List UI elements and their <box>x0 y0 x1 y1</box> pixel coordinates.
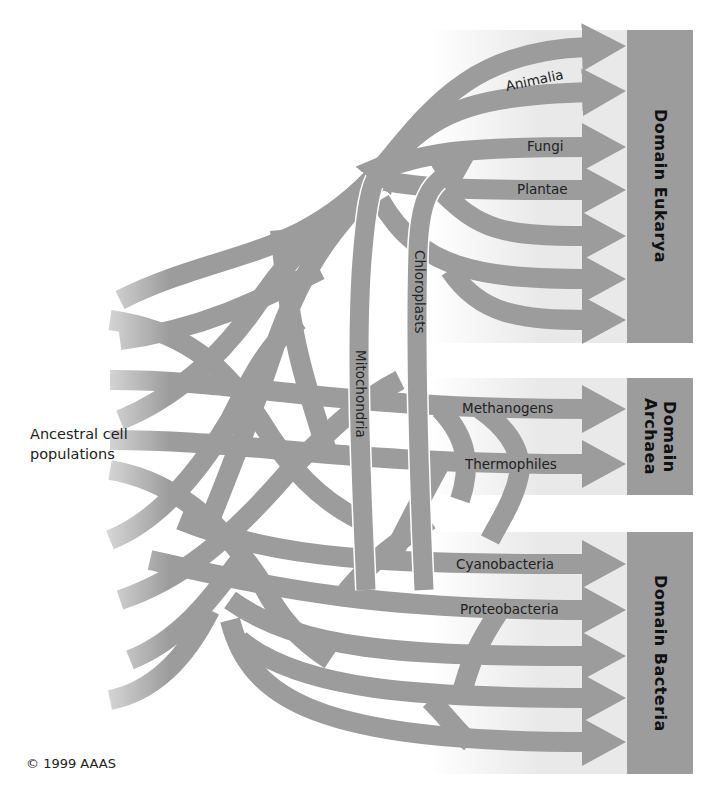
ancestral-label-line1: Ancestral cell <box>30 426 128 442</box>
domain-archaea-box: Domain Archaea <box>627 378 693 495</box>
ancestral-cell-populations-label: Ancestral cell populations <box>30 424 128 464</box>
domain-archaea-label: Domain Archaea <box>641 398 679 475</box>
tree-of-life-diagram: Domain Eukarya Domain Archaea Domain Bac… <box>0 0 707 793</box>
copyright-notice: © 1999 AAAS <box>26 756 116 771</box>
domain-bacteria-box: Domain Bacteria <box>627 532 693 774</box>
lineage-label-thermophiles: Thermophiles <box>465 456 557 472</box>
lineage-label-methanogens: Methanogens <box>462 400 553 416</box>
lineage-label-fungi: Fungi <box>527 138 563 154</box>
domain-archaea-label-line1: Domain <box>660 401 679 473</box>
mitochondria-label: Mitochondria <box>353 350 369 438</box>
domain-archaea-label-line2: Archaea <box>641 398 660 475</box>
lineage-label-proteobacteria: Proteobacteria <box>460 601 559 617</box>
domain-eukarya-label: Domain Eukarya <box>651 109 670 263</box>
lineage-label-plantae: Plantae <box>517 181 568 197</box>
lineage-label-cyanobacteria: Cyanobacteria <box>456 556 554 572</box>
domain-eukarya-box: Domain Eukarya <box>627 30 693 343</box>
chloroplasts-label: Chloroplasts <box>412 250 428 333</box>
ancestral-label-line2: populations <box>30 446 115 462</box>
domain-bacteria-label: Domain Bacteria <box>651 575 670 732</box>
